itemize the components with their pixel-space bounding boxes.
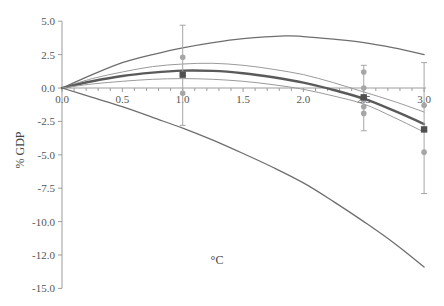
y-tick-label: -5.0 xyxy=(38,149,56,161)
y-tick-label: 5.0 xyxy=(41,15,55,27)
y-tick-label: -10.0 xyxy=(32,216,55,228)
estimate-point xyxy=(361,111,367,117)
series-line-upper-bound xyxy=(62,36,424,88)
y-tick-label: -7.5 xyxy=(38,182,56,194)
y-tick-label: 2.5 xyxy=(41,49,55,61)
mean-marker xyxy=(361,94,367,100)
series-line-lower-bound xyxy=(62,88,424,267)
mean-marker xyxy=(180,71,186,77)
error-bar-group xyxy=(180,25,186,125)
series-layer xyxy=(62,36,424,267)
chart: 5.02.50.0-2.5-5.0-7.5-10.0-12.0-15.0 0.0… xyxy=(0,0,444,306)
y-tick-label: -15.0 xyxy=(32,282,55,294)
estimate-point xyxy=(421,149,427,155)
estimate-point xyxy=(180,54,186,60)
mean-marker xyxy=(421,126,427,132)
x-tick-label: 0.0 xyxy=(55,93,69,105)
y-tick-label: -12.0 xyxy=(32,249,55,261)
y-axis: 5.02.50.0-2.5-5.0-7.5-10.0-12.0-15.0 xyxy=(32,15,62,294)
estimate-point xyxy=(361,104,367,110)
y-tick-label: -2.5 xyxy=(38,115,56,127)
x-axis-title: °C xyxy=(211,253,224,267)
y-tick-label: 0.0 xyxy=(41,82,55,94)
y-axis-title: % GDP xyxy=(13,131,27,168)
x-tick-label: 1.5 xyxy=(236,93,250,105)
x-tick-label: 2.0 xyxy=(297,93,311,105)
estimate-point xyxy=(421,103,427,109)
x-tick-label: 0.5 xyxy=(115,93,129,105)
estimate-point xyxy=(361,69,367,75)
estimate-point xyxy=(361,85,367,91)
error-bar-group xyxy=(361,65,367,130)
estimate-point xyxy=(180,91,186,97)
error-bar-group xyxy=(421,63,427,194)
